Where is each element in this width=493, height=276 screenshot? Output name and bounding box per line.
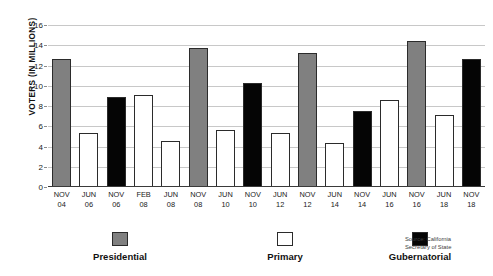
bar-nov-14: [353, 111, 372, 187]
x-tick-month: NOV: [108, 190, 124, 199]
bar-nov-12: [298, 53, 317, 187]
y-tick-mark: [44, 86, 47, 87]
x-tick-month: JUN: [164, 190, 178, 199]
legend-item-primary[interactable]: Primary: [225, 232, 345, 262]
x-tick-month: NOV: [190, 190, 206, 199]
y-tick-label: 0: [39, 183, 43, 192]
x-tick-year: 18: [454, 200, 488, 210]
y-tick-label: 16: [34, 21, 43, 30]
x-tick-month: NOV: [409, 190, 425, 199]
legend-label-primary: Primary: [225, 251, 345, 262]
x-tick-month: NOV: [299, 190, 315, 199]
x-tick-month: JUN: [328, 190, 342, 199]
bar-nov-06: [107, 97, 126, 187]
y-tick-mark: [44, 106, 47, 107]
y-tick-label: 10: [34, 81, 43, 90]
legend-label-presidential: Presidential: [60, 251, 180, 262]
legend-item-presidential[interactable]: Presidential: [60, 232, 180, 262]
x-tick-month: JUN: [82, 190, 96, 199]
bar-nov-18: [462, 59, 481, 187]
bar-nov-08: [189, 48, 208, 187]
x-tick-month: JUN: [273, 190, 287, 199]
x-tick-month: NOV: [354, 190, 370, 199]
y-tick-mark: [44, 187, 47, 188]
bar-jun-08: [161, 141, 180, 187]
x-tick-month: JUN: [218, 190, 232, 199]
plot-area: 0246810121416: [48, 25, 485, 187]
bar-jun-14: [325, 143, 344, 187]
bar-feb-08: [134, 95, 153, 187]
bar-jun-16: [380, 100, 399, 187]
bar-jun-10: [216, 130, 235, 187]
voter-turnout-bar-chart: VOTERS (IN MILLIONS) 0246810121416 NOV04…: [0, 0, 493, 276]
y-tick-mark: [44, 147, 47, 148]
bar-jun-12: [271, 133, 290, 187]
x-tick-label: NOV18: [454, 190, 488, 209]
legend-swatch-presidential: [112, 232, 128, 246]
y-tick-mark: [44, 45, 47, 46]
x-tick-month: NOV: [245, 190, 261, 199]
x-axis-line: [48, 186, 485, 188]
y-tick-mark: [44, 126, 47, 127]
y-tick-mark: [44, 25, 47, 26]
x-tick-month: NOV: [54, 190, 70, 199]
bar-nov-16: [407, 41, 426, 187]
source-note: Source: California Secretary of State: [405, 236, 493, 251]
y-tick-label: 4: [39, 142, 43, 151]
bars-group: [48, 25, 485, 187]
chart-legend: PresidentialPrimaryGubernatorial: [0, 232, 420, 272]
y-tick-label: 6: [39, 122, 43, 131]
bar-jun-06: [79, 133, 98, 187]
legend-swatch-primary: [277, 232, 293, 246]
y-tick-label: 8: [39, 102, 43, 111]
source-line-2: Secretary of State: [405, 244, 493, 252]
x-tick-month: FEB: [136, 190, 150, 199]
legend-label-gubernatorial: Gubernatorial: [360, 251, 480, 262]
y-tick-label: 2: [39, 162, 43, 171]
y-tick-label: 12: [34, 61, 43, 70]
y-tick-mark: [44, 66, 47, 67]
bar-jun-18: [435, 115, 454, 187]
x-tick-month: JUN: [437, 190, 451, 199]
y-tick-mark: [44, 167, 47, 168]
y-tick-label: 14: [34, 41, 43, 50]
x-tick-month: NOV: [463, 190, 479, 199]
source-line-1: Source: California: [405, 236, 493, 244]
bar-nov-10: [243, 83, 262, 187]
x-tick-month: JUN: [382, 190, 396, 199]
x-axis-labels: NOV04JUN06NOV06FEB08JUN08NOV08JUN10NOV10…: [48, 190, 485, 216]
bar-nov-04: [52, 59, 71, 187]
